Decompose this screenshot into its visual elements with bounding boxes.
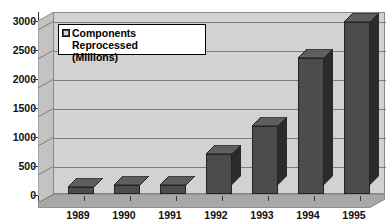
bar-top-face xyxy=(298,49,333,58)
bar-front-face xyxy=(68,187,94,194)
gridline-1000 xyxy=(54,138,386,139)
bar-front-face xyxy=(160,185,186,194)
x-axis-tick xyxy=(38,196,39,201)
x-axis-tick xyxy=(222,196,223,201)
bar-front-face xyxy=(114,185,140,194)
gridline-3000 xyxy=(54,22,386,23)
bar-side-face xyxy=(278,117,287,185)
y-axis-label-3000: 3000 xyxy=(3,16,36,26)
x-axis-tick xyxy=(314,196,315,201)
y-axis-label-2500: 2500 xyxy=(3,45,36,55)
chart-title-clipped xyxy=(0,0,387,1)
x-axis-tick xyxy=(130,196,131,201)
bar-1995[interactable] xyxy=(344,13,370,194)
bar-chart: 3000 2500 2000 1500 1000 500 0 xyxy=(0,0,387,223)
plot-floor xyxy=(38,194,385,208)
x-axis-label-1993: 1993 xyxy=(239,209,285,221)
legend-swatch-icon xyxy=(62,29,70,37)
x-axis-label-1991: 1991 xyxy=(147,209,193,221)
legend-label: Components Reprocessed (Millions) xyxy=(72,27,202,63)
bar-1993[interactable] xyxy=(252,117,278,194)
y-axis-label-1500: 1500 xyxy=(3,103,36,113)
grid-connectors xyxy=(38,12,54,208)
bar-side-face xyxy=(370,13,379,185)
x-axis-tick xyxy=(360,196,361,201)
bar-1994[interactable] xyxy=(298,49,324,194)
bar-top-face xyxy=(68,178,103,187)
bar-1990[interactable] xyxy=(114,176,140,194)
bar-top-face xyxy=(344,13,379,22)
y-axis-label-0: 0 xyxy=(3,190,36,200)
x-axis-label-1992: 1992 xyxy=(193,209,239,221)
bar-top-face xyxy=(206,145,241,154)
bar-front-face xyxy=(252,126,278,194)
y-axis: 3000 2500 2000 1500 1000 500 0 xyxy=(0,0,36,223)
bar-front-face xyxy=(344,22,370,194)
x-axis-label-1995: 1995 xyxy=(331,209,377,221)
x-axis-tick xyxy=(84,196,85,201)
bar-side-face xyxy=(324,49,333,185)
gridline-1500 xyxy=(54,109,386,110)
x-axis-label-1994: 1994 xyxy=(285,209,331,221)
bar-1992[interactable] xyxy=(206,145,232,194)
gridline-2000 xyxy=(54,80,386,81)
bar-1989[interactable] xyxy=(68,178,94,194)
bar-top-face xyxy=(160,176,195,185)
x-axis-tick xyxy=(176,196,177,201)
bar-front-face xyxy=(206,154,232,194)
x-axis: 1989 1990 1991 1992 1993 1994 1995 xyxy=(38,209,385,223)
y-axis-label-1000: 1000 xyxy=(3,132,36,142)
bar-1991[interactable] xyxy=(160,176,186,194)
x-axis-label-1990: 1990 xyxy=(101,209,147,221)
bar-top-face xyxy=(114,176,149,185)
y-axis-label-2000: 2000 xyxy=(3,74,36,84)
x-axis-tick xyxy=(268,196,269,201)
y-axis-label-500: 500 xyxy=(3,161,36,171)
bar-top-face xyxy=(252,117,287,126)
x-axis-label-1989: 1989 xyxy=(55,209,101,221)
bar-front-face xyxy=(298,58,324,194)
chart-legend[interactable]: Components Reprocessed (Millions) xyxy=(58,24,206,55)
